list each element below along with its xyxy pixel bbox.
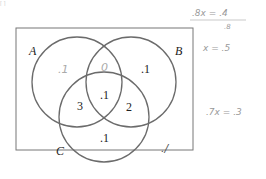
set-label-b: B bbox=[175, 45, 182, 57]
circle-a bbox=[32, 37, 122, 127]
region-b-only: .1 bbox=[141, 63, 150, 75]
annotation-line-1: .8x = .4 bbox=[192, 9, 228, 18]
annotation-line-3: x = .5 bbox=[203, 44, 230, 53]
region-ab-only: 0 bbox=[101, 62, 108, 73]
set-label-c: C bbox=[56, 145, 64, 157]
region-abc: .1 bbox=[100, 89, 109, 101]
region-ac-only: 3 bbox=[77, 100, 83, 112]
annotation-line-2: .8 bbox=[224, 24, 231, 31]
region-a-only: .1 bbox=[58, 64, 69, 75]
region-bc-only: 2 bbox=[126, 101, 132, 113]
region-outside: ./ bbox=[161, 143, 168, 154]
region-c-only: .1 bbox=[100, 132, 109, 144]
annotation-line-4: .7x = .3 bbox=[206, 108, 242, 117]
venn-diagram-figure: [ ] A B C .1 0 .1 .1 3 2 .1 ./ .8x = .4 … bbox=[0, 0, 266, 179]
set-label-a: A bbox=[29, 45, 36, 57]
circle-c bbox=[59, 72, 149, 162]
